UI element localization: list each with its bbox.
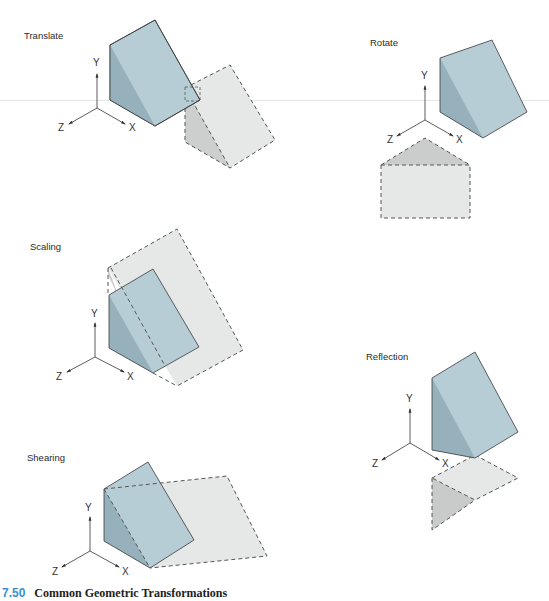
figure-title: Common Geometric Transformations [34,586,227,600]
figure-number: 7.50 [2,586,25,600]
z-axis-label: Z [56,371,62,382]
y-axis-label: Y [406,393,413,404]
y-axis-label: Y [85,502,92,513]
z-axis-label: Z [372,458,378,469]
translate-panel: Y Z X [58,20,275,168]
x-axis-label: X [129,122,136,133]
original-prism [432,352,518,458]
x-axis-label: X [127,371,134,382]
reflection-panel: Y Z X [372,352,518,530]
y-axis-label: Y [93,57,100,68]
shearing-panel: Y Z X [52,462,267,577]
x-axis-label: X [122,566,129,577]
translated-prism-ghost [185,65,275,168]
scaling-panel: Y Z X [56,229,243,386]
rotated-prism-ghost [381,138,470,218]
figure-caption: 7.50 Common Geometric Transformations [2,586,227,601]
z-axis-label: Z [58,122,64,133]
rotate-panel: Y Z X [381,40,527,218]
z-axis-label: Z [52,566,58,577]
y-axis-label: Y [91,308,98,319]
y-axis-label: Y [421,70,428,81]
x-axis-label: X [456,134,463,145]
z-axis-label: Z [387,134,393,145]
original-prism [440,40,527,138]
x-axis-label: X [442,458,449,469]
